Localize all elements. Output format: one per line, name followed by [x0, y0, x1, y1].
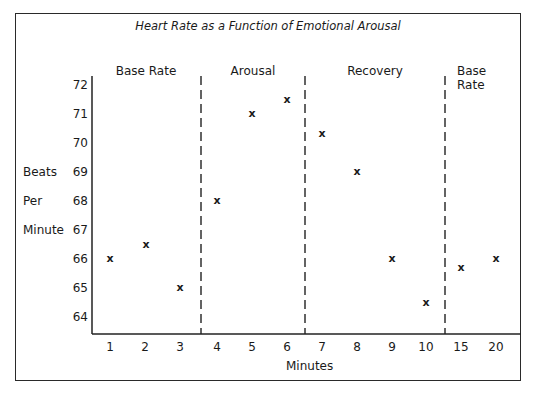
y-tick: 65	[66, 281, 88, 295]
data-point-marker: x	[353, 165, 360, 178]
y-tick: 68	[66, 194, 88, 208]
y-label-per: Per	[23, 194, 42, 208]
data-point-marker: x	[176, 281, 183, 294]
data-point-marker: x	[142, 237, 149, 250]
x-tick: 3	[176, 340, 184, 354]
x-tick: 15	[453, 340, 468, 354]
data-point-marker: x	[106, 252, 113, 265]
y-label-minute: Minute	[23, 223, 64, 237]
x-tick: 20	[488, 340, 503, 354]
data-point-marker: x	[388, 252, 395, 265]
data-point-marker: x	[213, 194, 220, 207]
x-tick: 7	[318, 340, 326, 354]
x-tick: 2	[141, 340, 149, 354]
x-tick: 8	[353, 340, 361, 354]
phase-label-base-rate-2: Base Rate	[457, 64, 509, 92]
phase-label-arousal: Arousal	[231, 64, 276, 78]
data-point-marker: x	[318, 127, 325, 140]
y-tick: 64	[66, 310, 88, 324]
data-point-marker: x	[248, 107, 255, 120]
data-point-marker: x	[457, 261, 464, 274]
x-tick: 4	[213, 340, 221, 354]
y-label-beats: Beats	[23, 165, 57, 179]
y-tick: 70	[66, 136, 88, 150]
x-axis-label: Minutes	[286, 359, 333, 373]
y-tick: 72	[66, 78, 88, 92]
y-tick: 69	[66, 165, 88, 179]
data-point-marker: x	[422, 295, 429, 308]
x-tick: 5	[248, 340, 256, 354]
x-tick: 6	[283, 340, 291, 354]
x-tick: 9	[388, 340, 396, 354]
phase-label-recovery: Recovery	[347, 64, 403, 78]
y-tick: 67	[66, 223, 88, 237]
y-tick: 66	[66, 252, 88, 266]
x-tick: 10	[418, 340, 433, 354]
phase-label-base-rate: Base Rate	[116, 64, 177, 78]
data-point-marker: x	[492, 252, 499, 265]
x-tick: 1	[106, 340, 114, 354]
data-point-marker: x	[283, 92, 290, 105]
y-tick: 71	[66, 107, 88, 121]
